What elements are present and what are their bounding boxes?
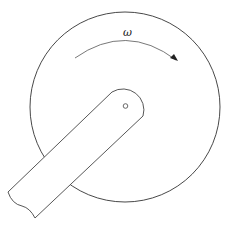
arrowhead-icon <box>170 54 178 61</box>
crank-arm <box>8 89 144 218</box>
omega-label: ω <box>123 26 132 39</box>
pivot-hole <box>123 104 128 109</box>
rotation-arrow <box>75 40 176 60</box>
mechanism-diagram: ω <box>0 0 229 230</box>
